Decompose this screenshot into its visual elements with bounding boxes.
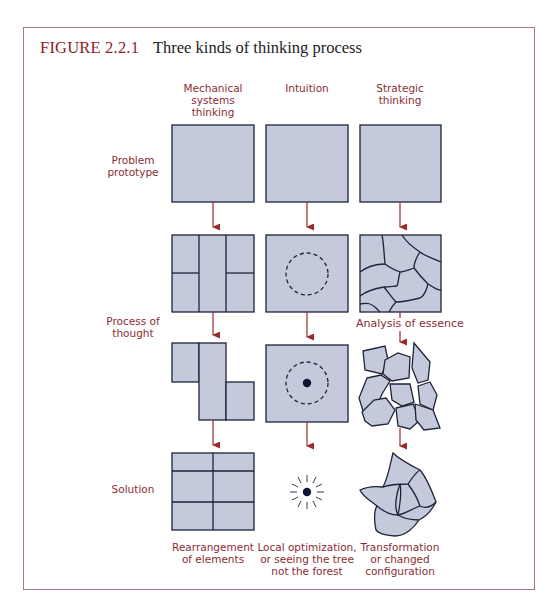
- outcome-line: of elements: [168, 553, 258, 565]
- mechanical-problem-box: [172, 125, 254, 202]
- outcome-mechanical: Rearrangement of elements: [168, 541, 258, 565]
- mechanical-rearranged-pieces: [172, 343, 254, 420]
- intuition-focus-box: [266, 235, 348, 312]
- intuition-solution-sunburst: [290, 475, 324, 509]
- strategic-transformed-shape: [360, 453, 436, 536]
- outcome-line: or changed: [355, 553, 445, 565]
- strategic-essence-box: [360, 235, 441, 312]
- strategic-scattered-fragments: [359, 343, 440, 430]
- outcome-intuition: Local optimization, or seeing the tree n…: [257, 541, 357, 577]
- intuition-problem-box: [266, 125, 348, 202]
- outcome-line: Local optimization,: [257, 541, 357, 553]
- mechanical-solution-grid: [172, 453, 254, 530]
- mechanical-decomposed-box: [172, 235, 254, 312]
- intuition-point-box: [266, 345, 348, 422]
- strategic-problem-box: [360, 125, 441, 202]
- thinking-process-diagram: [0, 0, 557, 613]
- outcome-strategic: Transformation or changed configuration: [355, 541, 445, 577]
- outcome-line: Rearrangement: [168, 541, 258, 553]
- outcome-line: or seeing the tree: [257, 553, 357, 565]
- analysis-of-essence-label: Analysis of essence: [356, 318, 446, 330]
- outcome-line: configuration: [355, 565, 445, 577]
- outcome-line: Transformation: [355, 541, 445, 553]
- outcome-line: not the forest: [257, 565, 357, 577]
